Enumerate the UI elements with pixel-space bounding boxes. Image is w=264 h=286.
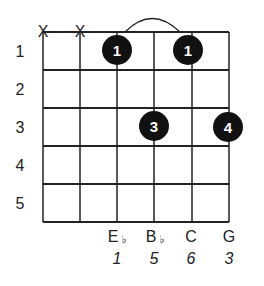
finger-dot: 3 [139, 111, 169, 141]
fret-number-1: 1 [16, 43, 25, 60]
flat-icon: ♭ [159, 233, 164, 246]
svg-text:3: 3 [150, 118, 158, 135]
muted-string-1-icon: X [38, 23, 49, 40]
note-name: E [108, 228, 119, 245]
fret-lines [43, 32, 229, 222]
note-name: C [185, 228, 197, 245]
interval: 5 [150, 250, 159, 267]
finger-dot: 4 [213, 112, 243, 142]
interval: 1 [113, 250, 122, 267]
finger-dot: 1 [173, 35, 203, 65]
fret-number-5: 5 [16, 195, 25, 212]
fret-number-2: 2 [16, 81, 25, 98]
finger-dot: 1 [102, 35, 132, 65]
note-name: B [146, 228, 157, 245]
string-lines [43, 32, 229, 222]
barre-arc [125, 19, 180, 33]
interval: 6 [187, 250, 196, 267]
note-name: G [223, 228, 235, 245]
flat-icon: ♭ [121, 233, 126, 246]
muted-string-2-icon: X [75, 23, 86, 40]
svg-text:4: 4 [224, 119, 233, 136]
interval: 3 [225, 250, 234, 267]
chord-diagram: X X 1 2 3 4 5 1 1 3 4 E ♭ B ♭ C G 1 5 6 … [0, 0, 264, 286]
fret-number-4: 4 [16, 157, 25, 174]
svg-text:1: 1 [184, 42, 192, 59]
svg-text:1: 1 [113, 42, 121, 59]
fret-number-3: 3 [16, 119, 25, 136]
